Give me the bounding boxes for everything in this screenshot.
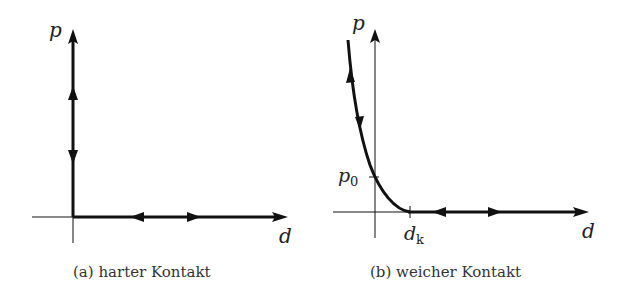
- right-arrow-icon: [488, 207, 502, 217]
- contact-diagram: p d (a) harter Kontakt p d p 0 d k (b) w…: [0, 0, 617, 296]
- p0-label: p: [338, 164, 350, 186]
- down-arrow-icon: [355, 116, 364, 130]
- left-arrow-icon: [130, 212, 144, 222]
- y-axis-label-a: p: [49, 18, 62, 42]
- panel-b: p d p 0 d k (b) weicher Kontakt: [333, 11, 595, 281]
- caption-a: (a) harter Kontakt: [73, 263, 211, 281]
- dk-label: d: [404, 222, 416, 244]
- dk-subscript: k: [416, 232, 424, 247]
- y-axis-label-b: p: [352, 11, 365, 35]
- up-arrow-icon: [68, 86, 78, 100]
- x-axis-label-b: d: [582, 219, 595, 243]
- down-arrow-icon: [68, 150, 78, 164]
- panel-a: p d (a) harter Kontakt: [32, 18, 292, 281]
- up-arrow-icon: [346, 68, 355, 83]
- caption-b: (b) weicher Kontakt: [370, 263, 521, 281]
- p0-subscript: 0: [350, 174, 358, 189]
- x-axis-label-a: d: [279, 224, 292, 248]
- right-arrow-icon: [187, 212, 201, 222]
- left-arrow-icon: [432, 207, 446, 217]
